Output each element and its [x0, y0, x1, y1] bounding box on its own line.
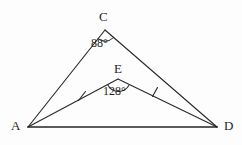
vertex-label-C: C: [99, 10, 108, 23]
angle-measure-C: 88°: [91, 37, 108, 49]
angle-measure-E: 128°: [103, 85, 126, 97]
geometry-figure: C E A D 88° 128°: [0, 0, 242, 145]
vertex-label-E: E: [114, 62, 122, 75]
vertex-label-A: A: [11, 119, 20, 132]
segment-CD: [105, 30, 217, 127]
tick-mark-ED: [153, 88, 158, 97]
tick-mark-AE: [79, 92, 86, 101]
segment-ED: [118, 79, 217, 127]
vertex-label-D: D: [224, 119, 233, 132]
